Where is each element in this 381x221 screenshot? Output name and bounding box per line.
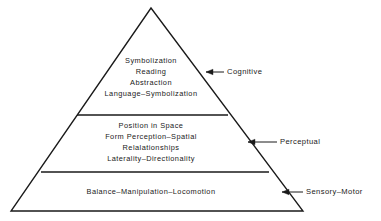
callout-sensory-motor: [282, 189, 303, 195]
sensory-motor-arrowhead-icon: [282, 189, 289, 195]
tier-sensory-motor-content: Balance–Manipulation–Locomotion: [21, 186, 281, 197]
callout-label-perceptual: Perceptual: [280, 137, 320, 146]
tier-cognitive-line-4: Language–Symbolization: [21, 88, 281, 99]
tier-sensory-motor-line-1: Balance–Manipulation–Locomotion: [21, 186, 281, 197]
tier-cognitive-content: Symbolization Reading Abstraction Langua…: [21, 55, 281, 99]
tier-cognitive-line-1: Symbolization: [21, 55, 281, 66]
tier-perceptual-line-4: Laterality–Directionality: [21, 153, 281, 164]
tier-perceptual-line-1: Position in Space: [21, 120, 281, 131]
tier-perceptual-line-2: Form Perception–Spatial: [21, 131, 281, 142]
tier-cognitive-line-3: Abstraction: [21, 77, 281, 88]
callout-label-sensory-motor: Sensory–Motor: [306, 187, 363, 196]
pyramid-outline: [11, 8, 303, 211]
callout-label-cognitive: Cognitive: [227, 67, 262, 76]
pyramid-diagram: Symbolization Reading Abstraction Langua…: [0, 0, 381, 221]
tier-perceptual-content: Position in Space Form Perception–Spatia…: [21, 120, 281, 164]
tier-perceptual-line-3: Relalationships: [21, 142, 281, 153]
